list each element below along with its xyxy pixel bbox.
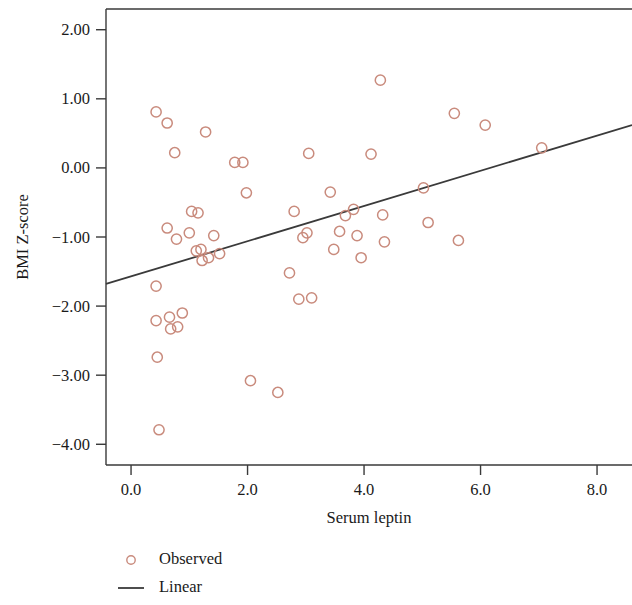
data-point	[170, 148, 180, 158]
data-point	[325, 187, 335, 197]
y-axis: 2.001.000.00−1.00−2.00−3.00−4.00	[52, 20, 106, 454]
x-tick-label: 4.0	[354, 480, 375, 499]
data-point	[203, 253, 213, 263]
data-point	[329, 244, 339, 254]
x-tick-label: 0.0	[121, 480, 142, 499]
data-point	[356, 253, 366, 263]
x-tick-label: 2.0	[237, 480, 258, 499]
data-point	[162, 118, 172, 128]
y-axis-title: BMI Z-score	[13, 194, 32, 280]
y-tick-label: 2.00	[61, 20, 90, 39]
data-point	[193, 208, 203, 218]
data-point	[151, 316, 161, 326]
data-point	[152, 352, 162, 362]
x-axis: 0.02.04.06.08.0	[121, 465, 608, 499]
observed-points	[151, 75, 547, 435]
y-tick-label: 0.00	[61, 158, 90, 177]
data-point	[154, 425, 164, 435]
data-point	[171, 234, 181, 244]
data-point	[151, 107, 161, 117]
y-tick-label: −4.00	[52, 435, 90, 454]
data-point	[241, 188, 251, 198]
data-point	[378, 210, 388, 220]
data-point	[307, 293, 317, 303]
plot-frame	[106, 9, 632, 465]
data-point	[209, 231, 219, 241]
legend-label: Observed	[159, 549, 223, 568]
data-point	[184, 228, 194, 238]
x-tick-label: 8.0	[587, 480, 608, 499]
y-tick-label: −2.00	[52, 297, 90, 316]
scatter-plot-figure: 2.001.000.00−1.00−2.00−3.00−4.00 0.02.04…	[0, 0, 632, 605]
data-point	[284, 268, 294, 278]
data-point	[334, 226, 344, 236]
data-point	[480, 120, 490, 130]
data-point	[366, 149, 376, 159]
data-point	[166, 324, 176, 334]
data-point	[197, 255, 207, 265]
data-point	[201, 127, 211, 137]
data-point	[162, 223, 172, 233]
data-point	[151, 281, 161, 291]
x-tick-label: 6.0	[470, 480, 491, 499]
data-point	[453, 235, 463, 245]
data-point	[173, 322, 183, 332]
data-point	[289, 206, 299, 216]
data-point	[352, 231, 362, 241]
data-point	[245, 376, 255, 386]
data-point	[304, 148, 314, 158]
data-point	[449, 108, 459, 118]
y-tick-label: −3.00	[52, 366, 90, 385]
data-point	[273, 387, 283, 397]
legend: ObservedLinear	[118, 549, 223, 596]
x-axis-title: Serum leptin	[327, 508, 412, 527]
data-point	[423, 217, 433, 227]
y-tick-label: −1.00	[52, 228, 90, 247]
data-point	[177, 308, 187, 318]
legend-label: Linear	[159, 577, 203, 596]
plot-canvas: 2.001.000.00−1.00−2.00−3.00−4.00 0.02.04…	[0, 0, 632, 605]
legend-marker-observed	[127, 556, 135, 564]
data-point	[375, 75, 385, 85]
y-tick-label: 1.00	[61, 89, 90, 108]
data-point	[379, 237, 389, 247]
data-point	[294, 294, 304, 304]
data-point	[164, 312, 174, 322]
